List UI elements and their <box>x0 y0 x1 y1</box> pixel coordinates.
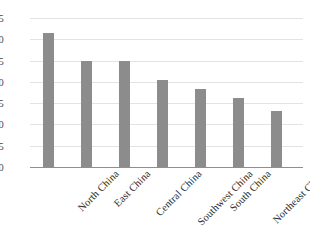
x-axis-labels: North China East China Central China Sou… <box>30 168 303 238</box>
bar-southwest-china <box>157 80 168 167</box>
x-tick-label-north-china: North China <box>76 168 121 213</box>
x-tick-label-northeast-china: Northeast China <box>271 168 310 225</box>
bar-north-china <box>43 33 54 167</box>
y-tick-label: 5 <box>0 140 4 151</box>
bar-east-china <box>81 61 92 167</box>
bar-chart: 35 30 25 20 15 10 5 0 North China East C… <box>0 0 310 238</box>
y-tick-label: 25 <box>0 55 4 66</box>
bar-south-china <box>195 89 206 167</box>
bar-northwest-china <box>271 111 282 167</box>
y-tick-label: 0 <box>0 162 4 173</box>
y-tick-label: 35 <box>0 13 4 24</box>
x-tick-label-central-china: Central China <box>154 168 204 218</box>
y-tick-label: 15 <box>0 98 4 109</box>
bar-central-china <box>119 61 130 167</box>
y-tick-label: 30 <box>0 34 4 45</box>
y-tick-label: 20 <box>0 76 4 87</box>
bar-northeast-china <box>233 98 244 167</box>
y-tick-label: 10 <box>0 119 4 130</box>
bars-layer <box>30 18 303 167</box>
